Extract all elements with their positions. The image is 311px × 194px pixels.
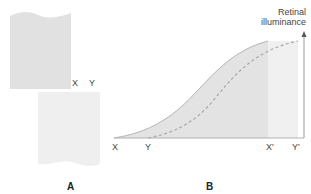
panel-a-y-label: Y xyxy=(89,78,95,88)
arrow-up-icon xyxy=(302,31,307,37)
y-label: Y xyxy=(145,142,151,152)
axis-title-line2: illuminance xyxy=(261,17,306,27)
x-prime-label: X' xyxy=(266,142,274,152)
panel-b-label: B xyxy=(206,181,213,192)
y-prime-label: Y' xyxy=(292,142,300,152)
panel-a-x-label: X xyxy=(72,78,78,88)
bottom-sheet xyxy=(38,92,100,166)
panel-a-label: A xyxy=(67,181,74,192)
shaded-region xyxy=(114,41,268,138)
top-sheet xyxy=(10,12,71,89)
x-label: X xyxy=(112,142,118,152)
light-region xyxy=(268,41,298,138)
figure: X Y A Retinal illuminance X Y X' Y' B xyxy=(0,0,311,194)
axis-title-line1: Retinal xyxy=(278,7,306,17)
